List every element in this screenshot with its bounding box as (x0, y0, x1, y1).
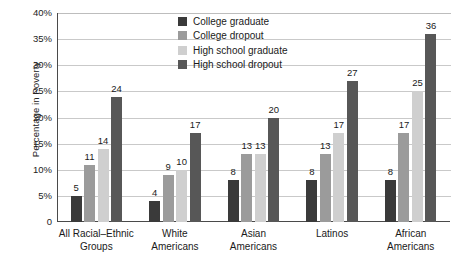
bar: 10 (176, 170, 187, 222)
bar: 8 (385, 180, 396, 222)
x-axis-category-label-line: Asian (214, 228, 293, 241)
legend-item: High school graduate (178, 43, 288, 58)
x-axis-category-label-line: All Racial–Ethnic (57, 228, 136, 241)
bar-value-label: 13 (255, 140, 266, 151)
legend-item-label: High school graduate (193, 45, 288, 56)
x-axis-category-label-line: White (136, 228, 215, 241)
bar: 4 (149, 201, 160, 222)
x-axis-category-label: AfricanAmericans (371, 228, 450, 253)
bar: 13 (255, 154, 266, 222)
y-axis-tick-label: 10% (10, 164, 52, 175)
legend-item: College dropout (178, 29, 288, 44)
x-axis-category-label: Latinos (293, 228, 372, 241)
x-axis-category-label-line: Latinos (293, 228, 372, 241)
x-axis-category-label: WhiteAmericans (136, 228, 215, 253)
bar: 9 (163, 175, 174, 222)
y-axis-tick-label: 15% (10, 138, 52, 149)
bar: 5 (71, 196, 82, 222)
y-axis-tick-label: 25% (10, 85, 52, 96)
bar: 17 (333, 133, 344, 222)
bar-value-label: 8 (231, 166, 236, 177)
x-axis-category-labels: All Racial–EthnicGroupsWhiteAmericansAsi… (57, 228, 450, 270)
bar-value-label: 11 (85, 151, 95, 162)
bar-value-label: 25 (412, 77, 423, 88)
bar: 24 (111, 97, 122, 222)
bar-value-label: 8 (309, 166, 314, 177)
legend-item: College graduate (178, 14, 288, 29)
bar-value-label: 4 (152, 187, 157, 198)
legend-swatch-icon (178, 46, 187, 55)
x-axis-category-label-line: Americans (371, 241, 450, 254)
bar-value-label: 36 (426, 20, 437, 31)
x-axis-category-label: AsianAmericans (214, 228, 293, 253)
legend-swatch-icon (178, 31, 187, 40)
bar: 11 (84, 165, 95, 222)
bar-value-label: 17 (190, 119, 201, 130)
bar: 17 (190, 133, 201, 222)
y-axis-tick-label: 5% (10, 190, 52, 201)
x-axis-category-label-line: Americans (136, 241, 215, 254)
y-axis-tick-label: 0 (10, 216, 52, 227)
y-axis-tick-label: 40% (10, 7, 52, 18)
x-axis-category-label-line: African (371, 228, 450, 241)
x-axis-category-label: All Racial–EthnicGroups (57, 228, 136, 253)
bar-value-label: 13 (320, 140, 331, 151)
bar-value-label: 8 (388, 166, 393, 177)
bar-value-label: 20 (268, 104, 279, 115)
bar-value-label: 27 (347, 67, 358, 78)
bar-value-label: 17 (334, 119, 345, 130)
bar: 13 (320, 154, 331, 222)
x-axis-category-label-line: Americans (214, 241, 293, 254)
y-axis-tick-label: 35% (10, 33, 52, 44)
bar: 25 (412, 91, 423, 222)
legend-swatch-icon (178, 17, 187, 26)
y-axis-tick-label: 30% (10, 59, 52, 70)
bar-cluster: 5111424 (71, 13, 123, 222)
legend: College graduateCollege dropoutHigh scho… (178, 14, 288, 72)
bar: 8 (228, 180, 239, 222)
bar-value-label: 10 (176, 156, 187, 167)
bar-value-label: 17 (399, 119, 410, 130)
bar: 36 (425, 34, 436, 222)
legend-item-label: High school dropout (193, 59, 282, 70)
legend-item-label: College graduate (193, 16, 269, 27)
bar: 20 (268, 118, 279, 223)
bar: 14 (98, 149, 109, 222)
bar-value-label: 14 (98, 135, 109, 146)
y-axis-tick-label: 20% (10, 112, 52, 123)
bar-value-label: 9 (165, 161, 170, 172)
bar-cluster: 8131727 (306, 13, 358, 222)
bar: 8 (306, 180, 317, 222)
bar-value-label: 24 (111, 83, 122, 94)
bar: 13 (241, 154, 252, 222)
bar-cluster: 8172536 (385, 13, 437, 222)
legend-swatch-icon (178, 60, 187, 69)
bar-value-label: 5 (73, 182, 78, 193)
legend-item: High school dropout (178, 58, 288, 73)
legend-item-label: College dropout (193, 30, 264, 41)
poverty-by-education-bar-chart: Percentage in Poverty 40%35%30%25%20%15%… (0, 0, 455, 273)
bar: 27 (347, 81, 358, 222)
x-axis-category-label-line: Groups (57, 241, 136, 254)
bar: 17 (398, 133, 409, 222)
bar-value-label: 13 (241, 140, 252, 151)
